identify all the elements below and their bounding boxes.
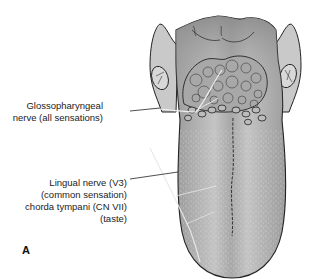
label-line: Lingual nerve (V3) xyxy=(25,177,127,189)
label-line: chorda tympani (CN VII) xyxy=(25,201,127,213)
tongue-illustration xyxy=(0,0,311,279)
label-line: (common sensation) xyxy=(25,189,127,201)
label-line: (taste) xyxy=(25,213,127,225)
tongue-body xyxy=(176,16,286,278)
label-line: Glossopharyngeal xyxy=(13,100,103,112)
left-tonsil-region xyxy=(149,24,178,112)
tongue-innervation-figure: Glossopharyngeal nerve (all sensations) … xyxy=(0,0,311,279)
panel-label: A xyxy=(22,244,30,256)
glossopharyngeal-nerve-label: Glossopharyngeal nerve (all sensations) xyxy=(13,100,103,124)
lingual-nerve-label: Lingual nerve (V3) (common sensation) ch… xyxy=(25,177,127,225)
label-line: nerve (all sensations) xyxy=(13,112,103,124)
